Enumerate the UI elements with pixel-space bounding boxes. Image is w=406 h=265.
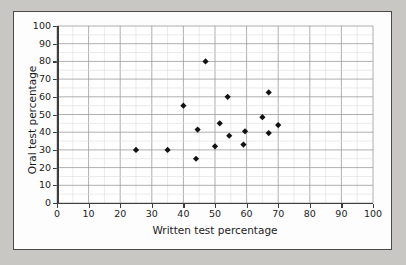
- data-point-group: (25, 30)(35, 30)(40, 55)(44, 25)(44.5, 4…: [57, 26, 373, 203]
- data-point: (47, 80): [202, 58, 208, 64]
- plot-area: (25, 30)(35, 30)(40, 55)(44, 25)(44.5, 4…: [57, 26, 373, 203]
- data-point: (44, 25): [193, 156, 199, 162]
- x-axis-tick-label: 70: [272, 209, 284, 219]
- y-axis-tick-label: 90: [39, 39, 51, 49]
- x-axis-tick-label: 50: [209, 209, 221, 219]
- y-axis-line: [57, 26, 59, 203]
- x-axis-tick-label: 30: [146, 209, 158, 219]
- x-axis-tick-mark: [183, 204, 184, 208]
- x-axis-tick-label: 0: [54, 209, 60, 219]
- y-axis-tick-label: 0: [45, 198, 51, 208]
- data-point: (40, 55): [180, 103, 186, 109]
- y-axis-tick-label: 40: [39, 127, 51, 137]
- y-axis-tick-label: 60: [39, 92, 51, 102]
- data-point: (54.5, 38): [226, 133, 232, 139]
- x-axis-tick-label: 90: [335, 209, 347, 219]
- x-axis-tick-mark: [278, 204, 279, 208]
- x-axis-tick-label: 40: [177, 209, 189, 219]
- x-axis-tick-mark: [120, 204, 121, 208]
- y-axis-tick-label: 80: [39, 56, 51, 66]
- y-axis-tick-label: 20: [39, 163, 51, 173]
- data-point: (35, 30): [165, 147, 171, 153]
- x-axis-tick-label: 100: [364, 209, 382, 219]
- data-point: (67, 62.5): [266, 89, 272, 95]
- chart-card: 0102030405060708090100 01020304050607080…: [13, 11, 392, 250]
- y-axis-tick-label: 70: [39, 74, 51, 84]
- data-point: (70, 44): [275, 122, 281, 128]
- y-axis-tick-label: 100: [33, 21, 51, 31]
- x-axis-tick-label: 20: [114, 209, 126, 219]
- x-axis-tick-mark: [89, 204, 90, 208]
- x-axis-tick-mark: [310, 204, 311, 208]
- x-axis-tick-mark: [152, 204, 153, 208]
- y-axis-tick-label: 50: [39, 110, 51, 120]
- data-point: (59, 33): [240, 141, 246, 147]
- x-axis-tick-label: 10: [83, 209, 95, 219]
- x-axis-tick-mark: [341, 204, 342, 208]
- x-axis-tick-mark: [373, 204, 374, 208]
- x-axis-tick-mark: [247, 204, 248, 208]
- data-point: (51.5, 45): [217, 120, 223, 126]
- x-axis-line: [57, 203, 373, 205]
- data-point: (59.5, 40.5): [242, 128, 248, 134]
- x-axis-tick-mark: [57, 204, 58, 208]
- data-point: (44.5, 41.5): [195, 126, 201, 132]
- y-axis-tick-label: 30: [39, 145, 51, 155]
- y-axis-tick-label: 10: [39, 180, 51, 190]
- data-point: (54, 60): [225, 94, 231, 100]
- x-axis-tick-label: 60: [241, 209, 253, 219]
- data-point: (25, 30): [133, 147, 139, 153]
- data-point: (50, 32): [212, 143, 218, 149]
- x-axis-title: Written test percentage: [57, 224, 373, 236]
- x-axis-tick-label: 80: [304, 209, 316, 219]
- data-point: (67, 39.5): [266, 130, 272, 136]
- y-axis-title: Oral test percentage: [26, 40, 38, 200]
- data-point: (65, 48.5): [259, 114, 265, 120]
- x-axis-tick-mark: [215, 204, 216, 208]
